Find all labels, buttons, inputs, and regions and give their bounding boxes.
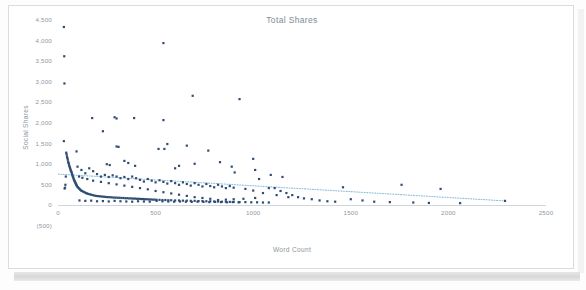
data-point[interactable] <box>219 161 221 163</box>
data-point[interactable] <box>155 190 157 192</box>
data-point[interactable] <box>131 201 133 203</box>
data-point[interactable] <box>63 26 65 28</box>
data-point[interactable] <box>125 200 127 202</box>
data-point[interactable] <box>78 199 80 201</box>
data-point[interactable] <box>174 167 176 169</box>
data-point[interactable] <box>107 196 109 198</box>
data-point[interactable] <box>202 201 204 203</box>
data-point[interactable] <box>148 198 150 200</box>
data-point[interactable] <box>118 197 120 199</box>
data-point[interactable] <box>459 202 461 204</box>
data-point[interactable] <box>108 176 110 178</box>
data-point[interactable] <box>297 196 299 198</box>
data-point[interactable] <box>342 186 344 188</box>
data-point[interactable] <box>318 199 320 201</box>
data-point[interactable] <box>120 197 122 199</box>
data-point[interactable] <box>238 98 240 100</box>
data-point[interactable] <box>205 183 207 185</box>
data-point[interactable] <box>311 198 313 200</box>
data-point[interactable] <box>182 181 184 183</box>
data-point[interactable] <box>95 195 97 197</box>
data-point[interactable] <box>161 200 163 202</box>
data-point[interactable] <box>279 190 281 192</box>
data-point[interactable] <box>170 199 172 201</box>
data-point[interactable] <box>144 198 146 200</box>
data-point[interactable] <box>105 196 107 198</box>
data-point[interactable] <box>254 197 256 199</box>
data-point[interactable] <box>162 42 164 44</box>
data-point[interactable] <box>179 200 181 202</box>
data-point[interactable] <box>229 185 231 187</box>
data-point[interactable] <box>244 188 246 190</box>
data-point[interactable] <box>137 200 139 202</box>
data-point[interactable] <box>155 181 157 183</box>
data-point[interactable] <box>123 176 125 178</box>
data-point[interactable] <box>109 196 111 198</box>
data-point[interactable] <box>205 200 207 202</box>
data-point[interactable] <box>115 145 117 147</box>
data-point[interactable] <box>122 197 124 199</box>
data-point[interactable] <box>92 170 94 172</box>
data-point[interactable] <box>162 119 164 121</box>
data-point[interactable] <box>164 199 166 201</box>
data-point[interactable] <box>84 172 86 174</box>
data-point[interactable] <box>123 185 125 187</box>
data-point[interactable] <box>201 197 203 199</box>
data-point[interactable] <box>75 150 77 152</box>
data-point[interactable] <box>192 95 194 97</box>
data-point[interactable] <box>114 196 116 198</box>
data-point[interactable] <box>96 200 98 202</box>
data-point[interactable] <box>108 182 110 184</box>
data-point[interactable] <box>373 201 375 203</box>
data-point[interactable] <box>150 198 152 200</box>
data-point[interactable] <box>133 117 135 119</box>
data-point[interactable] <box>88 167 90 169</box>
data-point[interactable] <box>86 178 88 180</box>
data-point[interactable] <box>139 179 141 181</box>
data-point[interactable] <box>90 200 92 202</box>
data-point[interactable] <box>63 82 65 84</box>
data-point[interactable] <box>201 185 203 187</box>
data-point[interactable] <box>412 201 414 203</box>
data-point[interactable] <box>170 192 172 194</box>
data-point[interactable] <box>147 188 149 190</box>
data-point[interactable] <box>231 166 233 168</box>
data-point[interactable] <box>119 177 121 179</box>
data-point[interactable] <box>197 184 199 186</box>
data-point[interactable] <box>281 176 283 178</box>
data-point[interactable] <box>439 188 441 190</box>
data-point[interactable] <box>102 130 104 132</box>
data-point[interactable] <box>194 182 196 184</box>
data-point[interactable] <box>138 198 140 200</box>
data-point[interactable] <box>114 116 116 118</box>
data-point[interactable] <box>151 180 153 182</box>
data-point[interactable] <box>81 177 83 179</box>
data-point[interactable] <box>127 178 129 180</box>
data-point[interactable] <box>131 186 133 188</box>
data-point[interactable] <box>139 187 141 189</box>
data-point[interactable] <box>131 175 133 177</box>
data-point[interactable] <box>208 201 210 203</box>
data-point[interactable] <box>400 184 402 186</box>
data-point[interactable] <box>112 174 114 176</box>
data-point[interactable] <box>226 201 228 203</box>
data-point[interactable] <box>234 171 236 173</box>
data-point[interactable] <box>100 175 102 177</box>
data-point[interactable] <box>103 196 105 198</box>
data-point[interactable] <box>389 201 391 203</box>
data-point[interactable] <box>166 182 168 184</box>
data-point[interactable] <box>147 178 149 180</box>
data-point[interactable] <box>233 198 235 200</box>
data-point[interactable] <box>185 201 187 203</box>
data-point[interactable] <box>270 174 272 176</box>
data-point[interactable] <box>209 198 211 200</box>
data-point[interactable] <box>152 199 154 201</box>
data-point[interactable] <box>143 200 145 202</box>
data-point[interactable] <box>134 198 136 200</box>
data-point[interactable] <box>63 140 65 142</box>
data-point[interactable] <box>186 145 188 147</box>
data-point[interactable] <box>92 180 94 182</box>
data-point[interactable] <box>130 197 132 199</box>
data-point[interactable] <box>135 177 137 179</box>
data-point[interactable] <box>334 201 336 203</box>
